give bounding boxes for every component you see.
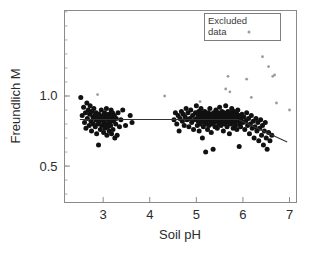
data-point [194,103,199,108]
legend-marker-excluded-icon [248,31,251,34]
x-tick-label: 7 [286,207,293,222]
y-tick-label: 1.0 [39,88,57,103]
x-axis-tick-labels: 34567 [100,207,294,222]
data-point [115,133,120,138]
y-axis-major-ticks [65,96,71,166]
data-points-excluded [96,55,291,111]
data-point-excluded [275,102,278,105]
data-point [128,113,133,118]
data-point-excluded [227,75,230,78]
data-point-excluded [267,65,270,68]
data-point-excluded [250,96,253,99]
data-point [191,127,196,132]
scatter-plot: 0.51.0 34567 Soil pH Freundlich M Exclud… [0,0,318,255]
data-point [261,143,266,148]
x-tick-label: 5 [193,207,200,222]
x-tick-label: 3 [100,207,107,222]
y-tick-label: 0.5 [39,159,57,174]
data-point [259,133,264,138]
data-point [247,131,252,136]
data-point [123,123,128,128]
data-point [177,129,182,134]
data-point [258,117,263,122]
x-axis-title: Soil pH [159,227,201,242]
data-point [200,136,205,141]
data-point [197,129,202,134]
data-point [249,113,254,118]
data-point [263,120,268,125]
x-tick-label: 4 [146,207,153,222]
data-point [120,108,125,113]
data-point [244,110,249,115]
data-point [267,138,272,143]
data-point [252,136,257,141]
data-point [116,110,121,115]
data-point [130,120,135,125]
data-point [182,123,187,128]
legend-label-line2: data [208,26,227,37]
data-point [238,124,243,129]
data-point-excluded [224,88,227,91]
data-point [174,122,179,127]
data-point [188,108,193,113]
data-point [82,120,87,125]
data-point [94,131,99,136]
data-point [265,147,270,152]
data-point [108,123,113,128]
y-axis-tick-labels: 0.51.0 [39,88,57,173]
data-point [91,106,96,111]
data-point [211,147,216,152]
data-point [223,103,228,108]
data-point [96,143,101,148]
data-point [217,105,222,110]
legend[interactable]: Excluded data [205,14,281,41]
data-point [114,116,119,121]
data-point-excluded [96,93,99,96]
x-axis-major-ticks [103,197,289,203]
data-point [203,150,208,155]
data-point-excluded [228,90,231,93]
data-point [110,127,115,132]
data-point [186,124,191,129]
x-tick-label: 6 [239,207,246,222]
data-point-excluded [245,78,248,81]
figure-container: 0.51.0 34567 Soil pH Freundlich M Exclud… [0,0,318,255]
data-point [104,133,109,138]
data-point [207,106,212,111]
data-point [89,129,94,134]
data-point [256,138,261,143]
data-point-excluded [199,100,202,103]
data-point [117,124,122,129]
data-point [242,127,247,132]
data-point-excluded [261,55,264,58]
data-point [227,131,232,136]
data-point-excluded [288,109,291,112]
data-point [104,106,109,111]
data-point [237,144,242,149]
data-point [221,129,226,134]
data-point [81,105,86,110]
data-point [78,95,83,100]
legend-label-line1: Excluded [208,15,247,26]
data-point-excluded [273,74,276,77]
data-point-excluded [163,95,166,98]
data-point [235,108,240,113]
data-points-included [78,95,274,155]
data-point [209,130,214,135]
y-axis-title: Freundlich M [8,68,23,143]
